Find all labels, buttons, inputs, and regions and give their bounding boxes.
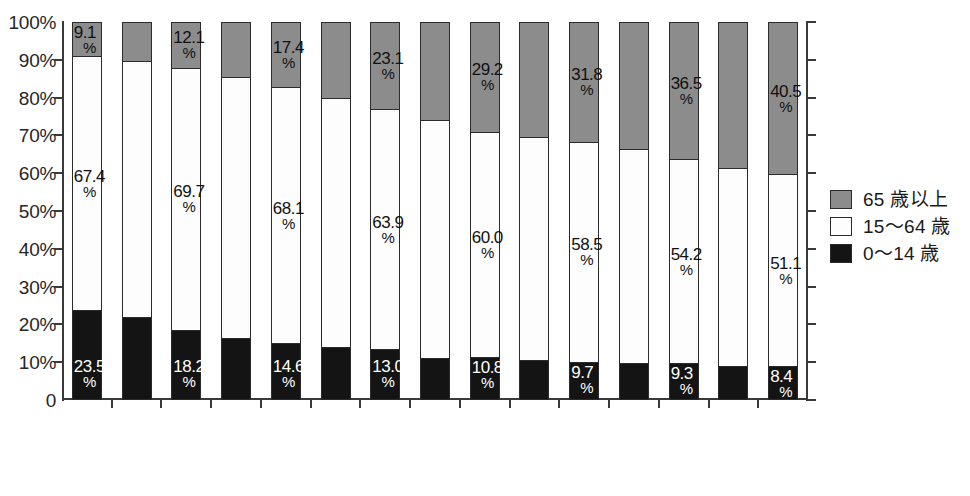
segment-65-and-over[interactable] [719, 23, 747, 169]
y-axis-tick-label: 80% [19, 88, 56, 107]
segment-value-label: 51.1% [770, 256, 796, 286]
segment-0-to-14[interactable] [222, 339, 250, 399]
segment-value-label: 67.4% [74, 169, 100, 199]
segment-65-and-over[interactable] [322, 23, 350, 99]
y-axis-tick-mark-right [808, 361, 816, 363]
y-axis-tick-mark-right [808, 134, 816, 136]
segment-15-to-64[interactable]: 54.2% [670, 160, 698, 364]
y-axis-tick-mark-left [54, 286, 62, 288]
segment-65-and-over[interactable]: 31.8% [570, 23, 598, 143]
segment-15-to-64[interactable]: 68.1% [272, 88, 300, 344]
segment-0-to-14[interactable]: 13.0% [371, 350, 399, 399]
y-axis-tick-label: 30% [19, 277, 56, 296]
segment-65-and-over[interactable]: 9.1% [73, 23, 101, 57]
segment-15-to-64[interactable]: 58.5% [570, 143, 598, 363]
segment-0-to-14[interactable]: 9.7% [570, 363, 598, 399]
legend-item[interactable]: 65 歳以上 [830, 186, 966, 213]
segment-value-label: 40.5% [770, 84, 796, 114]
legend-item[interactable]: 15～64 歳 [830, 213, 966, 240]
segment-value-label: 14.6% [273, 359, 299, 389]
segment-15-to-64[interactable]: 67.4% [73, 57, 101, 310]
bar[interactable]: 40.5%51.1%8.4% [768, 22, 798, 400]
segment-65-and-over[interactable] [123, 23, 151, 62]
segment-15-to-64[interactable] [222, 78, 250, 339]
segment-value-label: 36.5% [671, 76, 697, 106]
segment-0-to-14[interactable] [123, 318, 151, 399]
y-axis-tick-mark-left [54, 248, 62, 250]
y-axis-tick-mark-left [54, 361, 62, 363]
y-axis-tick-mark-right [808, 172, 816, 174]
segment-0-to-14[interactable]: 8.4% [769, 367, 797, 399]
bar[interactable] [619, 22, 649, 400]
plot-area: 9.1%67.4%23.5%12.1%69.7%18.2%17.4%68.1%1… [62, 22, 808, 400]
segment-0-to-14[interactable] [322, 348, 350, 400]
segment-15-to-64[interactable]: 60.0% [471, 133, 499, 359]
bar[interactable]: 17.4%68.1%14.6% [271, 22, 301, 400]
bar[interactable] [718, 22, 748, 400]
legend-swatch-old [830, 190, 852, 209]
segment-65-and-over[interactable] [620, 23, 648, 150]
segment-65-and-over[interactable] [520, 23, 548, 138]
legend-label: 65 歳以上 [863, 190, 948, 209]
segment-65-and-over[interactable]: 29.2% [471, 23, 499, 133]
legend-swatch-young [830, 244, 852, 263]
segment-value-label: 31.8% [571, 67, 597, 97]
y-axis-tick-mark-right [808, 399, 816, 401]
bar[interactable]: 12.1%69.7%18.2% [171, 22, 201, 400]
y-axis-tick-label: 90% [19, 50, 56, 69]
segment-value-label: 63.9% [372, 215, 398, 245]
y-axis-tick-mark-right [808, 210, 816, 212]
segment-0-to-14[interactable] [520, 361, 548, 399]
population-composition-chart: 010%20%30%40%50%60%70%80%90%100% 9.1%67.… [0, 0, 970, 496]
y-axis-tick-mark-left [54, 172, 62, 174]
segment-0-to-14[interactable] [719, 367, 747, 399]
segment-15-to-64[interactable] [322, 99, 350, 348]
bar[interactable]: 29.2%60.0%10.8% [470, 22, 500, 400]
segment-15-to-64[interactable] [421, 121, 449, 359]
segment-0-to-14[interactable]: 18.2% [172, 331, 200, 399]
segment-15-to-64[interactable] [620, 150, 648, 364]
y-axis-tick-label: 10% [19, 353, 56, 372]
segment-15-to-64[interactable]: 51.1% [769, 175, 797, 367]
segment-65-and-over[interactable] [421, 23, 449, 121]
segment-65-and-over[interactable]: 17.4% [272, 23, 300, 88]
segment-0-to-14[interactable]: 14.6% [272, 344, 300, 399]
segment-0-to-14[interactable]: 9.3% [670, 364, 698, 399]
segment-15-to-64[interactable] [123, 62, 151, 318]
segment-value-label: 68.1% [273, 201, 299, 231]
bar[interactable] [122, 22, 152, 400]
bar[interactable]: 31.8%58.5%9.7% [569, 22, 599, 400]
bar[interactable] [420, 22, 450, 400]
segment-65-and-over[interactable]: 23.1% [371, 23, 399, 110]
legend-item[interactable]: 0～14 歳 [830, 240, 966, 267]
segment-65-and-over[interactable]: 36.5% [670, 23, 698, 160]
y-axis-tick-label: 70% [19, 126, 56, 145]
y-axis-tick-label: 100% [9, 13, 56, 32]
x-axis-labels: 1980年1985年1990年1995年2000年2005年2010年2015年… [62, 404, 808, 496]
segment-value-label: 54.2% [671, 247, 697, 277]
segment-value-label: 9.1% [74, 25, 100, 55]
bar[interactable]: 23.1%63.9%13.0% [370, 22, 400, 400]
bar[interactable] [519, 22, 549, 400]
bar[interactable]: 36.5%54.2%9.3% [669, 22, 699, 400]
segment-0-to-14[interactable]: 10.8% [471, 358, 499, 399]
bar[interactable] [321, 22, 351, 400]
segment-0-to-14[interactable]: 23.5% [73, 311, 101, 399]
segment-value-label: 10.8% [472, 360, 498, 390]
bar[interactable]: 9.1%67.4%23.5% [72, 22, 102, 400]
y-axis-tick-mark-right [808, 286, 816, 288]
segment-65-and-over[interactable] [222, 23, 250, 78]
segment-0-to-14[interactable] [421, 359, 449, 399]
segment-15-to-64[interactable] [520, 138, 548, 362]
segment-65-and-over[interactable]: 12.1% [172, 23, 200, 69]
segment-value-label: 23.1% [372, 51, 398, 81]
segment-15-to-64[interactable]: 69.7% [172, 69, 200, 331]
legend-label: 15～64 歳 [863, 217, 951, 236]
segment-value-label: 29.2% [472, 62, 498, 92]
segment-65-and-over[interactable]: 40.5% [769, 23, 797, 175]
segment-0-to-14[interactable] [620, 364, 648, 399]
segment-15-to-64[interactable]: 63.9% [371, 110, 399, 350]
segment-15-to-64[interactable] [719, 169, 747, 366]
y-axis-tick-mark-right [808, 323, 816, 325]
bar[interactable] [221, 22, 251, 400]
